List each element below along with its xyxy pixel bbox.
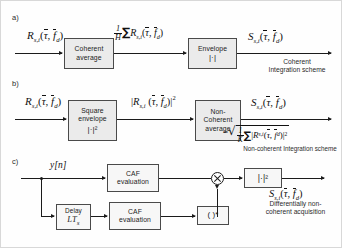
- panel-a-arrow-in: [59, 51, 63, 55]
- panel-label-b: b): [12, 79, 19, 88]
- block-delay: Delay LTs: [56, 204, 91, 230]
- panel-c-arrow-caf-bottom: [104, 214, 108, 218]
- panel-a-mid-label: 1H∑Rs,i(τ, fd): [114, 25, 163, 43]
- multiplier-icon: [211, 172, 224, 185]
- block-coherent-average: Coherent average: [64, 38, 114, 69]
- panel-c-caption: Differentially non- coherent acquisition: [248, 200, 342, 216]
- figure-canvas: a) Rs,i(τ, fd) Coherent average 1H∑Rs,i(…: [0, 0, 342, 248]
- panel-b-wire-out: [241, 119, 331, 120]
- block-square-envelope: Square envelope |·|²: [68, 100, 117, 141]
- panel-c-arrow-mult-in: [215, 185, 219, 189]
- panel-a-arrow-out: [328, 51, 332, 55]
- panel-c-wire-conj-stub: [217, 216, 218, 217]
- panel-a-arrow-mid: [183, 51, 187, 55]
- panel-c-arrow-out: [321, 176, 325, 180]
- panel-a-output-label: Ss,i(τ, fd): [248, 31, 283, 45]
- panel-c-arrow-delay: [51, 214, 55, 218]
- panel-b-input-label: Rs,i(τ, fd): [25, 96, 61, 110]
- block-square-modulus: |·|²: [244, 168, 282, 188]
- panel-c-wire-branch-down: [41, 178, 42, 217]
- panel-c-wire-caf-to-conj: [161, 216, 195, 217]
- panel-b-wire-in: [15, 119, 66, 120]
- panel-c-input-label: y[n]: [50, 161, 66, 171]
- panel-a-wire-out: [237, 53, 331, 54]
- panel-c-arrow-top: [102, 176, 106, 180]
- panel-b-mid-label: |Rs,i (τ, fd)|2: [131, 95, 176, 109]
- panel-c-arrow-sq: [239, 176, 243, 180]
- panel-label-a: a): [12, 13, 19, 22]
- panel-a-wire-mid: [114, 53, 186, 54]
- panel-b-output-formula: =√1K∑|Rs,i(τ, fd)|2: [223, 125, 289, 143]
- panel-b-output-label: Ss,i(τ, fd): [251, 97, 286, 111]
- panel-c-wire-top-to-mult: [159, 178, 211, 179]
- panel-c-arrow-conj: [192, 214, 196, 218]
- panel-c-wire-in: [21, 178, 105, 179]
- panel-a-wire-in: [15, 53, 62, 54]
- block-caf-evaluation-bottom: CAF evaluation: [109, 202, 161, 230]
- panel-b-arrow-mid: [190, 117, 194, 121]
- panel-a-input-label: Rs,i(τ, fd): [27, 30, 63, 44]
- panel-b-caption: Non-coherent Integration scheme: [237, 145, 342, 153]
- panel-c-wire-out: [282, 178, 324, 179]
- panel-b-arrow-out: [328, 117, 332, 121]
- panel-c-wire-conj-up: [217, 189, 218, 216]
- panel-b-arrow-in: [63, 117, 67, 121]
- block-conjugate: ( )*: [197, 206, 229, 225]
- panel-b-wire-mid: [117, 119, 193, 120]
- block-caf-evaluation-top: CAF evaluation: [107, 164, 159, 192]
- panel-a-caption: Coherent Integration scheme: [253, 58, 341, 74]
- panel-label-c: c): [12, 157, 18, 166]
- block-envelope: Envelope |·|: [188, 38, 237, 69]
